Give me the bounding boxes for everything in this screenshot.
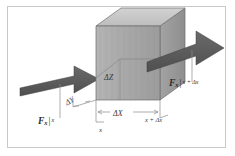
axis-ticks xyxy=(96,115,168,122)
dimension-delta-y xyxy=(73,98,96,107)
dimension-delta-x xyxy=(96,100,160,122)
force-arrow-in xyxy=(20,66,99,96)
force-balance-figure: Fx|x Fx|x + Δx ΔZ ΔX ΔY x x + Δx xyxy=(0,0,235,156)
diagram-canvas xyxy=(0,0,235,156)
